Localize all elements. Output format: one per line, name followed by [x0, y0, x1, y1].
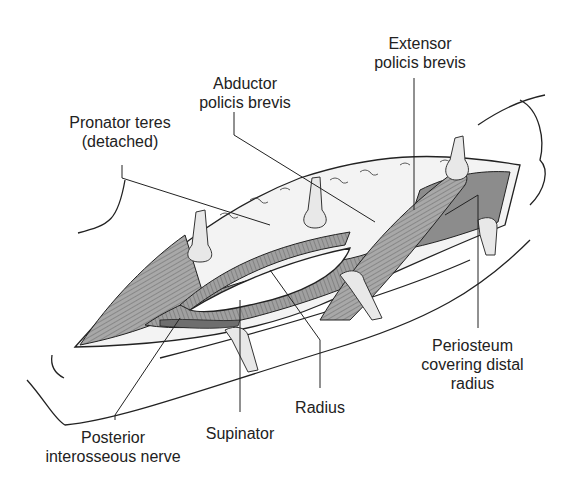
- label-supinator: Supinator: [190, 424, 290, 443]
- label-posterior-interosseous-nerve: Posterior interosseous nerve: [38, 428, 188, 466]
- label-line: Abductor: [180, 74, 310, 93]
- label-line: Supinator: [190, 424, 290, 443]
- label-line: Extensor: [355, 34, 485, 53]
- label-line: radius: [405, 374, 540, 393]
- label-line: Radius: [280, 398, 360, 417]
- nerve-strip: [160, 319, 240, 328]
- label-extensor-policis-brevis: Extensor policis brevis: [355, 34, 485, 72]
- label-pronator-teres: Pronator teres (detached): [50, 113, 190, 151]
- label-line: (detached): [50, 132, 190, 151]
- label-line: covering distal: [405, 355, 540, 374]
- label-line: policis brevis: [180, 93, 310, 112]
- label-periosteum: Periosteum covering distal radius: [405, 336, 540, 393]
- label-line: Pronator teres: [50, 113, 190, 132]
- label-line: Periosteum: [405, 336, 540, 355]
- anatomy-diagram: Extensor policis brevis Abductor policis…: [0, 0, 572, 488]
- label-radius: Radius: [280, 398, 360, 417]
- label-line: policis brevis: [355, 53, 485, 72]
- label-abductor-policis-brevis: Abductor policis brevis: [180, 74, 310, 112]
- label-line: interosseous nerve: [38, 447, 188, 466]
- label-line: Posterior: [38, 428, 188, 447]
